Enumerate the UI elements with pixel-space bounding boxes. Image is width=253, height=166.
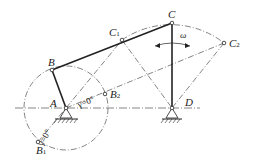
omega-label: ω	[180, 31, 186, 40]
link-c1-d	[122, 40, 172, 108]
joint-b	[50, 68, 54, 72]
label-c1: C1	[109, 27, 120, 38]
label-a: A	[50, 98, 57, 109]
joint-a	[64, 106, 68, 110]
label-c2: C2	[229, 38, 240, 49]
joint-c	[170, 21, 174, 25]
link-c2-d	[172, 43, 224, 108]
joint-c1	[120, 38, 124, 42]
joint-b2	[103, 92, 107, 96]
ground-support-a-icon	[54, 108, 78, 123]
label-b2: B2	[110, 89, 120, 100]
mechanism-diagram: A B C D C1 C2 B2 B1 ω γ=0° γ=0°	[0, 0, 253, 166]
ground-support-d-icon	[161, 108, 182, 123]
rocker-arc	[122, 25, 224, 43]
joint-d	[170, 106, 174, 110]
label-b: B	[48, 57, 55, 68]
joint-c2	[222, 41, 226, 45]
label-d: D	[185, 97, 193, 108]
label-c: C	[168, 9, 175, 20]
